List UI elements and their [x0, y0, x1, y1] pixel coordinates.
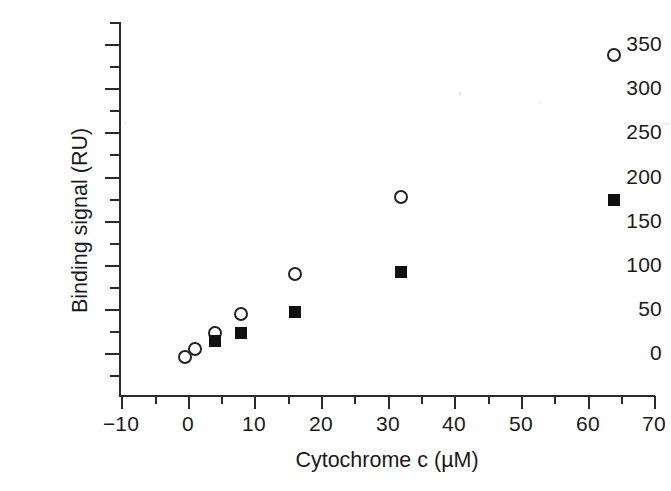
data-point-filled-square: [395, 266, 407, 278]
y-tick-200: [105, 177, 119, 179]
y-tick-label-350-text: 350: [626, 32, 671, 56]
y-tick-100: [105, 265, 119, 267]
x-tick-60: [588, 396, 590, 409]
x-tick-label-10: 10: [219, 412, 289, 436]
y-tick-300: [105, 88, 119, 90]
scatter-plot-figure: 350 300 250 200 150 100 50 0 −10 0 10 20…: [0, 0, 671, 491]
y-tick-label-200-text: 200: [626, 165, 671, 189]
data-point-filled-square: [235, 327, 247, 339]
y-tick-label-100: 100: [571, 253, 671, 277]
y-minor-tick: [110, 243, 119, 245]
y-tick-150: [105, 221, 119, 223]
y-minor-tick: [110, 110, 119, 112]
y-tick-label-50: 50: [571, 297, 671, 321]
x-tick-20: [321, 396, 323, 409]
x-minor-tick: [221, 396, 223, 404]
y-tick-label-250: 250: [571, 120, 671, 144]
y-tick-label-50-text: 50: [638, 297, 671, 321]
x-tick-50: [521, 396, 523, 409]
x-tick-10: [254, 396, 256, 409]
x-minor-tick: [621, 396, 623, 404]
x-tick-label-0: 0: [153, 412, 223, 436]
y-tick-label-100-text: 100: [626, 253, 671, 277]
y-tick-label-150-text: 150: [626, 209, 671, 233]
data-point-open-circle: [288, 267, 302, 281]
x-axis-spine: [119, 395, 655, 397]
x-minor-tick: [354, 396, 356, 404]
scan-speckle: [124, 121, 127, 124]
x-minor-tick: [554, 396, 556, 404]
x-axis-title: Cytochrome c (µM): [119, 448, 655, 473]
x-tick-0: [188, 396, 190, 409]
x-tick-label-70: 70: [619, 412, 671, 436]
x-tick-label-50: 50: [486, 412, 556, 436]
y-tick-label-0: 0: [571, 341, 671, 365]
y-tick-label-300: 300: [571, 76, 671, 100]
x-tick-label-60: 60: [553, 412, 623, 436]
data-point-open-circle: [234, 307, 248, 321]
x-tick-30: [388, 396, 390, 409]
y-axis-spine: [119, 22, 121, 396]
data-point-open-circle: [394, 190, 408, 204]
y-minor-tick: [110, 154, 119, 156]
scan-speckle: [539, 101, 542, 104]
x-tick-70: [654, 396, 656, 409]
y-tick-label-0-text: 0: [650, 341, 671, 365]
y-tick-label-300-text: 300: [626, 76, 671, 100]
y-tick-50: [105, 309, 119, 311]
y-minor-tick: [110, 375, 119, 377]
data-point-filled-square: [608, 194, 620, 206]
y-tick-label-150: 150: [571, 209, 671, 233]
x-tick-40: [454, 396, 456, 409]
y-tick-0: [105, 353, 119, 355]
y-minor-tick: [110, 287, 119, 289]
data-point-filled-square: [209, 335, 221, 347]
y-tick-label-350: 350: [571, 32, 671, 56]
data-point-open-circle: [188, 342, 202, 356]
x-tick-label-neg10: −10: [86, 412, 156, 436]
y-tick-350: [105, 44, 119, 46]
x-minor-tick: [155, 396, 157, 404]
y-tick-label-250-text: 250: [626, 120, 671, 144]
x-minor-tick: [421, 396, 423, 404]
y-minor-tick: [110, 66, 119, 68]
y-tick-label-200: 200: [571, 165, 671, 189]
y-minor-tick: [110, 199, 119, 201]
y-tick-250: [105, 132, 119, 134]
y-minor-tick: [110, 331, 119, 333]
scan-speckle: [458, 91, 462, 96]
y-minor-tick: [110, 22, 119, 24]
data-point-open-circle: [607, 48, 621, 62]
x-tick-label-40: 40: [419, 412, 489, 436]
y-axis-title: Binding signal (RU): [68, 31, 93, 411]
data-point-filled-square: [289, 306, 301, 318]
x-minor-tick: [288, 396, 290, 404]
x-minor-tick: [488, 396, 490, 404]
x-tick-neg10: [121, 396, 123, 409]
x-tick-label-30: 30: [353, 412, 423, 436]
x-tick-label-20: 20: [286, 412, 356, 436]
